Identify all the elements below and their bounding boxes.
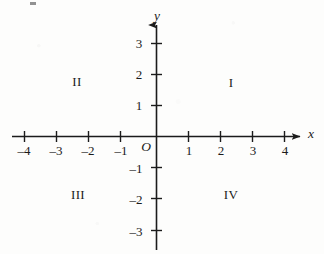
origin-label: O	[141, 140, 151, 154]
coordinate-plane-graphic	[0, 0, 324, 254]
quadrant-label-2: II	[72, 75, 81, 88]
quadrant-label-3: III	[71, 188, 85, 201]
figure-canvas: y x O –4 –3 –2 –1 1 2 3 4 3 2 1 –1 –2 –3…	[0, 0, 324, 254]
y-axis-label: y	[154, 9, 160, 23]
x-tick-label-neg4: –4	[18, 144, 31, 157]
x-tick-label-4: 4	[282, 144, 289, 157]
y-tick-label-2: 2	[136, 68, 143, 81]
x-tick-label-neg3: –3	[50, 144, 63, 157]
y-tick-label-1: 1	[136, 99, 143, 112]
y-tick-label-neg3: –3	[130, 225, 143, 238]
x-tick-label-2: 2	[218, 144, 225, 157]
x-tick-label-3: 3	[250, 144, 257, 157]
x-tick-label-1: 1	[186, 144, 193, 157]
quadrant-label-4: IV	[224, 188, 238, 201]
x-tick-label-neg2: –2	[82, 144, 95, 157]
y-tick-label-neg1: –1	[130, 162, 143, 175]
x-tick-label-neg1: –1	[115, 144, 128, 157]
quadrant-label-1: I	[229, 76, 234, 89]
y-tick-label-3: 3	[136, 37, 143, 50]
y-tick-label-neg2: –2	[130, 193, 143, 206]
x-axis-label: x	[308, 127, 314, 141]
